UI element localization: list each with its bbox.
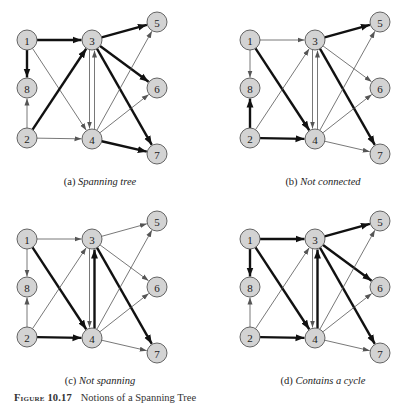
edge-4-7	[325, 340, 370, 350]
svg-text:4: 4	[312, 134, 318, 146]
edge-4-7	[102, 340, 147, 350]
node-4: 4	[305, 129, 325, 149]
edge-4-5	[97, 230, 152, 329]
edge-4-5	[97, 31, 152, 130]
figure-number: Figure 10.17	[14, 392, 72, 403]
panel-title: Not connected	[300, 176, 360, 187]
node-7: 7	[147, 343, 167, 363]
edge-2-4	[37, 138, 82, 139]
node-6: 6	[370, 78, 390, 98]
panel-tag: (a)	[64, 176, 76, 187]
edge-3-6-highlighted	[100, 46, 149, 82]
figure-title: Notions of a Spanning Tree	[81, 392, 197, 403]
edge-3-7-highlighted	[97, 248, 152, 344]
svg-text:1: 1	[24, 234, 30, 246]
edge-3-5	[102, 224, 147, 237]
node-8: 8	[240, 78, 260, 98]
svg-text:8: 8	[247, 282, 253, 294]
svg-text:7: 7	[154, 149, 160, 161]
node-7: 7	[147, 144, 167, 164]
edge-4-7-highlighted	[102, 141, 147, 151]
svg-text:2: 2	[247, 133, 253, 145]
panel-contains-cycle: 13586247 (d) Contains a cycle	[223, 199, 405, 399]
node-2: 2	[240, 327, 260, 347]
svg-text:6: 6	[154, 282, 160, 294]
panel-title: Spanning tree	[78, 176, 136, 187]
edge-4-5	[320, 31, 375, 130]
graph-diagram: 13586247	[0, 199, 200, 399]
svg-text:3: 3	[312, 234, 318, 246]
node-5: 5	[370, 211, 390, 231]
svg-text:8: 8	[24, 282, 30, 294]
panel-tag: (b)	[285, 176, 297, 187]
edge-3-5-highlighted	[102, 25, 147, 38]
node-4: 4	[82, 328, 102, 348]
panel-tag: (c)	[65, 375, 77, 386]
node-1: 1	[240, 30, 260, 50]
node-3: 3	[82, 229, 102, 249]
svg-text:1: 1	[247, 234, 253, 246]
node-4: 4	[305, 328, 325, 348]
figure-caption: Figure 10.17 Notions of a Spanning Tree	[14, 392, 196, 403]
svg-text:6: 6	[377, 282, 383, 294]
panel-caption: (a) Spanning tree	[0, 176, 200, 187]
svg-text:2: 2	[24, 133, 30, 145]
svg-text:5: 5	[154, 216, 160, 228]
panel-caption: (d) Contains a cycle	[223, 375, 405, 386]
node-6: 6	[147, 277, 167, 297]
svg-text:4: 4	[312, 333, 318, 345]
panel-tag: (d)	[281, 375, 293, 386]
svg-text:2: 2	[247, 332, 253, 344]
panel-not-connected: 13586247 (b) Not connected	[223, 0, 405, 200]
svg-text:3: 3	[312, 35, 318, 47]
graph-diagram: 13586247	[223, 199, 405, 399]
node-5: 5	[370, 12, 390, 32]
node-3: 3	[305, 229, 325, 249]
panel-spanning-tree: 13586247 (a) Spanning tree	[0, 0, 200, 200]
svg-text:8: 8	[24, 83, 30, 95]
svg-text:8: 8	[247, 83, 253, 95]
edge-2-4-highlighted	[260, 138, 305, 139]
edge-3-6	[100, 245, 149, 281]
graph-diagram: 13586247	[0, 0, 200, 200]
graph-diagram: 13586247	[223, 0, 405, 200]
node-6: 6	[370, 277, 390, 297]
svg-text:3: 3	[89, 35, 95, 47]
node-1: 1	[240, 229, 260, 249]
node-5: 5	[147, 211, 167, 231]
svg-text:1: 1	[247, 35, 253, 47]
edge-3-5-highlighted	[325, 25, 370, 38]
node-2: 2	[240, 128, 260, 148]
edge-4-5	[320, 230, 375, 329]
node-3: 3	[82, 30, 102, 50]
node-1: 1	[17, 229, 37, 249]
svg-text:5: 5	[154, 17, 160, 29]
svg-text:7: 7	[377, 348, 383, 360]
svg-text:6: 6	[154, 83, 160, 95]
svg-text:6: 6	[377, 83, 383, 95]
edge-3-6	[323, 46, 372, 82]
node-5: 5	[147, 12, 167, 32]
edge-3-7-highlighted	[320, 49, 375, 145]
node-8: 8	[240, 277, 260, 297]
node-8: 8	[17, 78, 37, 98]
svg-text:4: 4	[89, 134, 95, 146]
edge-3-5-highlighted	[325, 224, 370, 237]
svg-text:1: 1	[24, 35, 30, 47]
node-8: 8	[17, 277, 37, 297]
panel-caption: (b) Not connected	[223, 176, 405, 187]
node-7: 7	[370, 144, 390, 164]
edge-2-4-highlighted	[260, 337, 305, 338]
edge-4-7	[325, 141, 370, 151]
svg-text:5: 5	[377, 17, 383, 29]
svg-text:3: 3	[89, 234, 95, 246]
panel-caption: (c) Not spanning	[0, 375, 200, 386]
svg-text:7: 7	[377, 149, 383, 161]
svg-text:4: 4	[89, 333, 95, 345]
panel-title: Contains a cycle	[295, 375, 365, 386]
node-3: 3	[305, 30, 325, 50]
node-2: 2	[17, 128, 37, 148]
node-1: 1	[17, 30, 37, 50]
node-7: 7	[370, 343, 390, 363]
spanning-tree-figure: 13586247 (a) Spanning tree 13586247 (b) …	[0, 0, 405, 404]
